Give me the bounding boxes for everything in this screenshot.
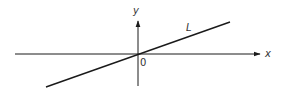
origin-label: 0 [140,57,146,68]
y-axis-label: y [132,5,140,16]
x-axis-label: x [264,48,271,59]
diagram-canvas: x y 0 L [0,0,284,92]
line-l-label: L [186,22,192,33]
